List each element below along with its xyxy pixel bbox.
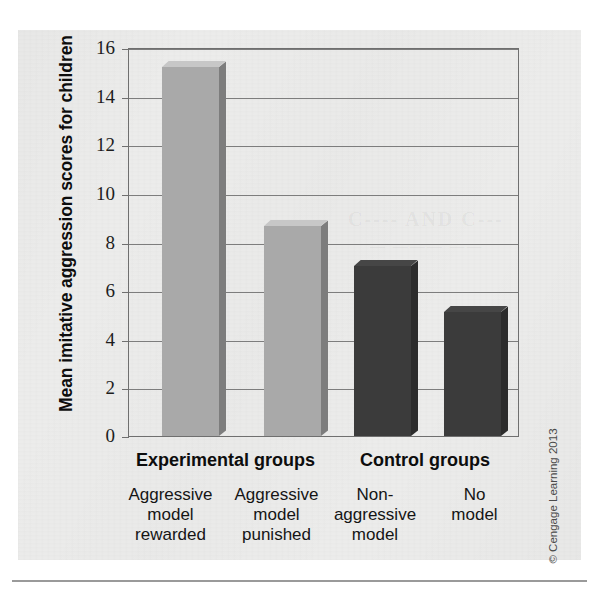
y-tick-label-0: 0 — [75, 425, 115, 447]
bar-no-model — [444, 312, 501, 436]
group-heading-experimental: Experimental groups — [128, 450, 323, 471]
y-tick-14 — [122, 98, 129, 99]
y-tick-8 — [122, 244, 129, 245]
y-tick-0 — [122, 437, 129, 438]
y-tick-label-8: 8 — [75, 232, 115, 254]
category-label-line: No — [427, 485, 522, 505]
category-label-line: Aggressive — [224, 485, 329, 505]
category-label-line: aggressive — [323, 505, 427, 525]
y-tick-4 — [122, 341, 129, 342]
gridline-16 — [129, 49, 518, 50]
category-label-line: Aggressive — [118, 485, 223, 505]
category-label-line: model — [118, 505, 223, 525]
category-label-no-model: No model — [427, 485, 522, 525]
category-label-non-aggressive-model: Non- aggressive model — [323, 485, 427, 545]
bar-aggressive-model-rewarded — [162, 67, 219, 436]
plot-area: 16 14 12 10 8 6 4 2 0 — [128, 48, 519, 437]
bar-non-aggressive-model — [354, 266, 411, 436]
category-label-aggressive-model-punished: Aggressive model punished — [224, 485, 329, 545]
bar-side-face — [219, 62, 226, 436]
y-tick-2 — [122, 389, 129, 390]
copyright-credit: © Cengage Learning 2013 — [547, 411, 559, 581]
bar-side-face — [411, 261, 418, 436]
category-label-line: model — [323, 525, 427, 545]
y-tick-label-6: 6 — [75, 280, 115, 302]
y-tick-16 — [122, 49, 129, 50]
y-tick-label-16: 16 — [75, 37, 115, 59]
bar-side-face — [501, 307, 508, 436]
y-tick-label-14: 14 — [75, 86, 115, 108]
y-tick-label-2: 2 — [75, 377, 115, 399]
footer-divider — [12, 580, 587, 582]
category-label-line: Non- — [323, 485, 427, 505]
bar-aggressive-model-punished — [264, 226, 321, 436]
category-label-line: model — [224, 505, 329, 525]
category-label-line: rewarded — [118, 525, 223, 545]
y-tick-label-12: 12 — [75, 134, 115, 156]
y-axis-title: Mean imitative aggression scores for chi… — [56, 24, 77, 424]
category-label-aggressive-model-rewarded: Aggressive model rewarded — [118, 485, 223, 545]
bar-chart: Mean imitative aggression scores for chi… — [0, 0, 599, 592]
bar-side-face — [321, 221, 328, 436]
group-heading-control: Control groups — [330, 450, 520, 471]
bar-front-face — [354, 266, 411, 436]
y-tick-10 — [122, 195, 129, 196]
bar-front-face — [264, 226, 321, 436]
figure-page: C---- AND C--- — ——— —— Mean imitative a… — [0, 0, 599, 592]
y-tick-12 — [122, 146, 129, 147]
bar-front-face — [162, 67, 219, 436]
y-tick-label-4: 4 — [75, 329, 115, 351]
category-label-line: punished — [224, 525, 329, 545]
category-label-line: model — [427, 505, 522, 525]
y-tick-label-10: 10 — [75, 183, 115, 205]
bar-front-face — [444, 312, 501, 436]
y-tick-6 — [122, 292, 129, 293]
